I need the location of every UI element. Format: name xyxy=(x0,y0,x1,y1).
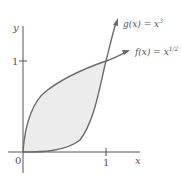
y-tick-label: 1 xyxy=(12,56,18,67)
x-axis-label: x xyxy=(135,155,141,166)
y-axis-label: y xyxy=(12,22,19,33)
g-exponent: 3 xyxy=(159,17,163,24)
g-arrowhead-icon xyxy=(113,18,118,26)
f-exponent: 1/2 xyxy=(169,45,179,52)
g-label: g(x) = x3 xyxy=(123,17,163,29)
origin-label: 0 xyxy=(15,155,21,166)
shaded-region xyxy=(23,61,106,152)
f-arrowhead-icon xyxy=(122,50,130,55)
f-label: f(x) = x1/2 xyxy=(134,45,179,57)
chart: y 1 0 1 x g(x) = x3 f(x) = x1/2 xyxy=(0,0,181,183)
x-tick-label: 1 xyxy=(103,157,109,168)
